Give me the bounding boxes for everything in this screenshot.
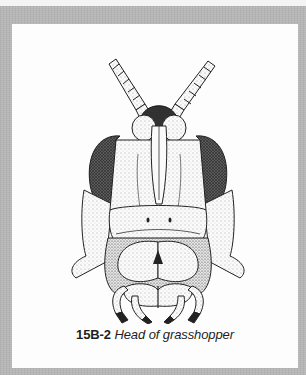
figure-frame: 15B-2 Head of grasshopper [0,6,306,375]
figure-number: 15B-2 [76,327,111,342]
figure-caption: 15B-2 Head of grasshopper [12,327,298,342]
grasshopper-head-illustration [12,24,298,324]
clypeus [109,206,207,241]
right-antenna [169,61,215,120]
figure-title: Head of grasshopper [114,327,234,342]
figure-panel: 15B-2 Head of grasshopper [12,24,298,368]
